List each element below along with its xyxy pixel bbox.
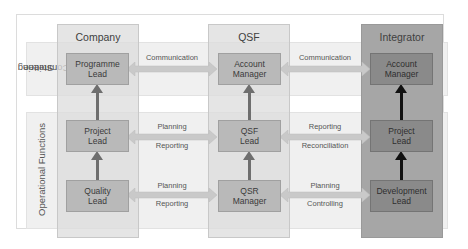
up-arrow-icon bbox=[243, 151, 255, 160]
steering-committee-label: SteeringCommittee bbox=[26, 42, 56, 94]
qsf-integrator-link-1-top-label: Reporting bbox=[280, 122, 370, 131]
company-qsf-link-2-top-label: Planning bbox=[127, 181, 217, 190]
qsf-arrow-shaft-2 bbox=[248, 159, 251, 180]
company-arrow-shaft-2 bbox=[96, 159, 99, 180]
development-lead-box: DevelopmentLead bbox=[370, 180, 433, 212]
double-arrow-icon bbox=[127, 62, 217, 76]
double-arrow-icon bbox=[280, 62, 370, 76]
integrator-arrow-shaft-1 bbox=[400, 92, 403, 120]
qsf-integrator-link-2-top-label: Planning bbox=[280, 181, 370, 190]
company-qsf-link-1-top-label: Planning bbox=[127, 122, 217, 131]
company-qsf-link-1-bottom-label: Reporting bbox=[127, 141, 217, 150]
integrator-arrow-shaft-2 bbox=[400, 159, 403, 180]
integrator-column-title: Integrator bbox=[362, 31, 442, 43]
programme-lead-box: ProgrammeLead bbox=[66, 53, 129, 85]
qsf-arrow-shaft-1 bbox=[248, 92, 251, 120]
qsf-integrator-link-1-bottom-label: Reconciliation bbox=[280, 141, 370, 150]
operational-functions-label: Operational Functions bbox=[26, 112, 56, 227]
company-qsf-link-2-bottom-label: Reporting bbox=[127, 199, 217, 208]
company-qsf-link-0 bbox=[127, 62, 217, 76]
company-arrow-shaft-1 bbox=[96, 92, 99, 120]
quality-lead-box: QualityLead bbox=[66, 180, 129, 212]
qsf-integrator-link-0-label: Communication bbox=[280, 53, 370, 62]
company-project-lead-box: ProjectLead bbox=[66, 120, 129, 152]
up-arrow-icon bbox=[395, 151, 407, 160]
integrator-project-lead-box: ProjectLead bbox=[370, 120, 433, 152]
up-arrow-icon bbox=[395, 84, 407, 93]
up-arrow-icon bbox=[91, 151, 103, 160]
qsf-account-manager-box: AccountManager bbox=[218, 53, 281, 85]
up-arrow-icon bbox=[91, 84, 103, 93]
integrator-account-manager-box: AccountManager bbox=[370, 53, 433, 85]
qsf-column-title: QSF bbox=[209, 31, 289, 43]
company-qsf-link-0-label: Communication bbox=[127, 53, 217, 62]
qsr-manager-box: QSRManager bbox=[218, 180, 281, 212]
qsf-lead-box: QSFLead bbox=[218, 120, 281, 152]
qsf-integrator-link-2-bottom-label: Controlling bbox=[280, 199, 370, 208]
company-column-title: Company bbox=[58, 31, 138, 43]
qsf-integrator-link-0 bbox=[280, 62, 370, 76]
up-arrow-icon bbox=[243, 84, 255, 93]
